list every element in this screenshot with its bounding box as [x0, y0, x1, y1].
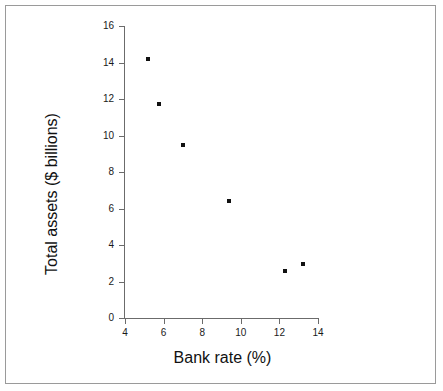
- y-axis-tick-label: 4: [74, 240, 114, 250]
- y-axis-tick-label: 8: [74, 167, 114, 177]
- data-point: [301, 262, 305, 266]
- y-axis-tick-label: 16: [74, 21, 114, 31]
- x-axis-tick-mark: [125, 318, 126, 324]
- y-axis-title: Total assets ($ billions): [43, 104, 61, 284]
- data-point: [227, 199, 231, 203]
- x-axis-tick-label: 10: [226, 327, 256, 338]
- data-point: [146, 57, 150, 61]
- figure-border: [5, 5, 436, 384]
- x-axis-tick-label: 14: [303, 327, 333, 338]
- data-point: [181, 143, 185, 147]
- y-axis-tick-label: 12: [74, 94, 114, 104]
- x-axis-tick-label: 8: [187, 327, 217, 338]
- x-axis-tick-label: 6: [149, 327, 179, 338]
- y-axis-tick-mark: [119, 26, 125, 27]
- x-axis-tick-mark: [318, 318, 319, 324]
- y-axis-tick-label: 6: [74, 204, 114, 214]
- y-axis-tick-mark: [119, 245, 125, 246]
- y-axis-tick-label: 10: [74, 131, 114, 141]
- x-axis-tick-mark: [164, 318, 165, 324]
- x-axis-title: Bank rate (%): [125, 349, 320, 367]
- x-axis-tick-mark: [202, 318, 203, 324]
- data-point: [157, 102, 161, 106]
- y-axis-tick-mark: [119, 99, 125, 100]
- y-axis-tick-mark: [119, 209, 125, 210]
- x-axis-tick-mark: [279, 318, 280, 324]
- scatter-plot-figure: 0246810121416 468101214 Bank rate (%) To…: [0, 0, 443, 391]
- x-axis-tick-label: 12: [264, 327, 294, 338]
- y-axis-tick-label: 0: [74, 313, 114, 323]
- x-axis-tick-mark: [241, 318, 242, 324]
- x-axis-tick-label: 4: [110, 327, 140, 338]
- x-axis-line: [124, 318, 319, 319]
- y-axis-tick-mark: [119, 136, 125, 137]
- y-axis-tick-mark: [119, 63, 125, 64]
- y-axis-tick-mark: [119, 172, 125, 173]
- data-point: [283, 269, 287, 273]
- y-axis-tick-label: 14: [74, 58, 114, 68]
- y-axis-tick-label: 2: [74, 277, 114, 287]
- y-axis-tick-mark: [119, 282, 125, 283]
